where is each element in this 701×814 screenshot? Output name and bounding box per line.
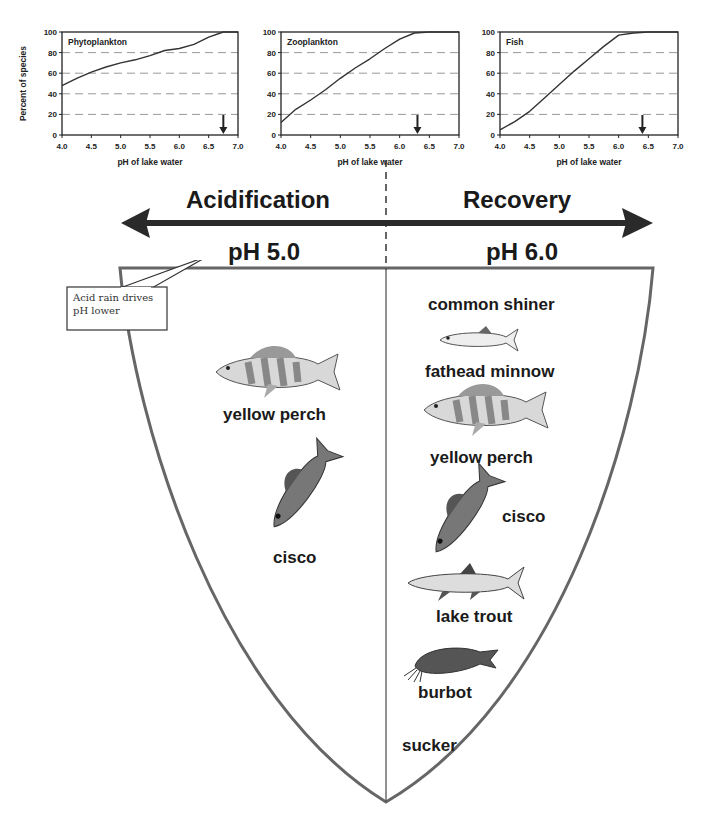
svg-text:0: 0: [272, 131, 277, 140]
svg-text:100: 100: [263, 28, 277, 37]
chart-title: Zooplankton: [287, 37, 338, 47]
species-vs-ph-charts: 0204060801004.04.55.05.56.06.57.0pH of l…: [0, 0, 701, 170]
plot-frame: [62, 32, 238, 135]
svg-text:0: 0: [53, 131, 58, 140]
svg-text:60: 60: [267, 69, 276, 78]
right-species-lake-trout: lake trout: [436, 607, 513, 627]
down-arrow-icon: [219, 127, 227, 134]
acidification-heading: Acidification: [186, 186, 330, 214]
svg-text:100: 100: [482, 28, 496, 37]
svg-text:20: 20: [267, 110, 276, 119]
svg-text:60: 60: [486, 69, 495, 78]
left-species-cisco: cisco: [273, 548, 316, 568]
svg-text:80: 80: [486, 49, 495, 58]
data-line: [500, 32, 678, 130]
svg-text:0: 0: [491, 131, 496, 140]
arrow-left-head-icon: [121, 208, 150, 238]
svg-text:40: 40: [267, 90, 276, 99]
right-species-fathead-minnow: fathead minnow: [425, 362, 554, 382]
svg-text:80: 80: [48, 49, 57, 58]
cisco-icon: [258, 436, 343, 536]
svg-text:40: 40: [486, 90, 495, 99]
svg-text:20: 20: [486, 110, 495, 119]
yellow-perch-icon: [216, 346, 340, 398]
svg-text:80: 80: [267, 49, 276, 58]
plot-frame: [500, 32, 678, 135]
right-species-cisco: cisco: [502, 507, 545, 527]
chart-title: Phytoplankton: [68, 37, 127, 47]
y-axis-label: Percent of species: [18, 46, 28, 121]
right-species-common-shiner: common shiner: [428, 295, 555, 315]
lake-bowl: [0, 260, 701, 814]
acid-rain-callout: Acid rain drives pH lower: [73, 291, 161, 317]
svg-text:20: 20: [48, 110, 57, 119]
yellow-perch-icon: [424, 384, 548, 436]
down-arrow-icon: [413, 127, 421, 134]
svg-text:40: 40: [48, 90, 57, 99]
recovery-heading: Recovery: [463, 186, 571, 214]
svg-text:60: 60: [48, 69, 57, 78]
right-species-sucker: sucker: [402, 736, 457, 756]
arrow-right-head-icon: [622, 208, 653, 238]
down-arrow-icon: [638, 127, 646, 134]
lake-trout-icon: [408, 563, 524, 601]
right-species-yellow-perch: yellow perch: [430, 448, 533, 468]
cisco-icon: [420, 461, 505, 561]
plot-frame: [281, 32, 459, 135]
svg-text:100: 100: [44, 28, 58, 37]
burbot-icon: [404, 648, 498, 682]
fathead-minnow-icon: [440, 326, 518, 351]
callout-pointer: [120, 260, 208, 288]
left-species-yellow-perch: yellow perch: [223, 405, 326, 425]
chart-title: Fish: [506, 37, 523, 47]
right-species-burbot: burbot: [418, 683, 472, 703]
